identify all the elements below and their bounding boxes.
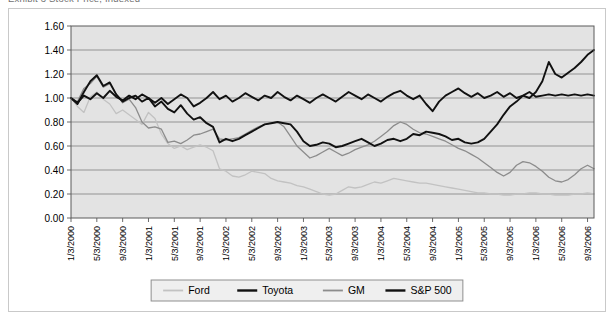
- x-axis-tick-label: 1/3/2000: [66, 226, 76, 261]
- legend-label-gm: GM: [348, 284, 365, 296]
- x-axis-tick-label: 9/3/2001: [195, 226, 205, 261]
- x-axis-tick-label: 1/3/2002: [221, 226, 231, 261]
- y-axis-tick-labels: 0.000.200.400.600.801.001.201.401.60: [45, 21, 65, 224]
- x-axis-tick-label: 5/3/2003: [324, 226, 334, 261]
- x-axis-tick-label: 1/3/2004: [376, 226, 386, 261]
- x-axis-tick-label: 5/3/2006: [557, 226, 567, 261]
- legend-label-s-p-500: S&P 500: [410, 284, 451, 296]
- x-axis-tick-label: 9/3/2000: [118, 226, 128, 261]
- y-axis-tick-label: 1.20: [45, 69, 65, 80]
- y-axis-tick-label: 0.40: [45, 165, 65, 176]
- x-axis-tick-labels: 1/3/20005/3/20009/3/20001/3/20015/3/2001…: [66, 226, 593, 261]
- y-axis-tick-label: 1.40: [45, 45, 65, 56]
- legend-label-ford: Ford: [188, 284, 210, 296]
- y-axis-tick-label: 0.00: [45, 213, 65, 224]
- x-axis-tick-label: 5/3/2000: [92, 226, 102, 261]
- x-axis-tick-label: 9/3/2002: [273, 226, 283, 261]
- x-axis-tick-label: 5/3/2004: [402, 226, 412, 261]
- x-axis-tick-label: 5/3/2005: [479, 226, 489, 261]
- y-axis-tick-label: 0.80: [45, 117, 65, 128]
- chart-legend: FordToyotaGMS&P 500: [151, 280, 463, 301]
- x-axis-tick-label: 9/3/2003: [350, 226, 360, 261]
- x-axis-tick-label: 9/3/2004: [428, 226, 438, 261]
- legend-label-toyota: Toyota: [262, 284, 293, 296]
- x-axis-tick-label: 1/3/2005: [454, 226, 464, 261]
- x-axis-tick-label: 9/3/2005: [505, 226, 515, 261]
- chart-container: 0.000.200.400.600.801.001.201.401.60 1/3…: [8, 8, 606, 312]
- stock-price-line-chart: 0.000.200.400.600.801.001.201.401.60 1/3…: [9, 9, 605, 311]
- y-axis-tick-label: 1.00: [45, 93, 65, 104]
- x-axis-tick-label: 5/3/2001: [170, 226, 180, 261]
- x-axis-tick-marks: [71, 218, 588, 222]
- x-axis-tick-label: 1/3/2001: [144, 226, 154, 261]
- y-axis-tick-label: 1.60: [45, 21, 65, 32]
- x-axis-tick-label: 5/3/2002: [247, 226, 257, 261]
- x-axis-tick-label: 1/3/2003: [299, 226, 309, 261]
- x-axis-tick-label: 9/3/2006: [583, 226, 593, 261]
- y-axis-tick-marks: [67, 26, 71, 218]
- y-axis-tick-label: 0.60: [45, 141, 65, 152]
- y-axis-tick-label: 0.20: [45, 189, 65, 200]
- x-axis-tick-label: 1/3/2006: [531, 226, 541, 261]
- clipped-exhibit-header: Exhibit 3 Stock Price, Indexed: [8, 0, 140, 4]
